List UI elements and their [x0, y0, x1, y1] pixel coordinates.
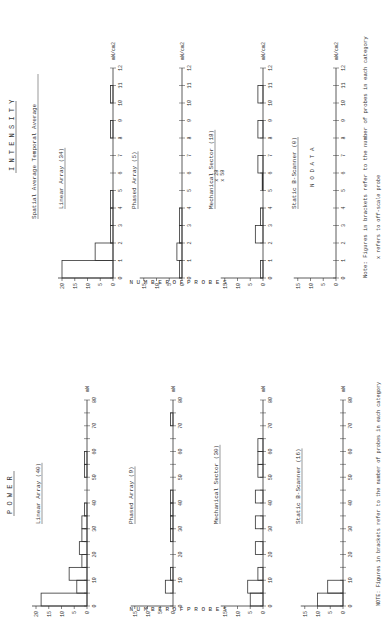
- x-tick-label: 10: [341, 100, 347, 106]
- x-tick-label: 5: [268, 189, 274, 192]
- x-tick-label: 30: [348, 526, 354, 532]
- histogram-bar: [318, 593, 344, 606]
- histogram-bar: [258, 464, 263, 477]
- x-tick-label: 0: [178, 604, 184, 607]
- x-tick-label: 70: [178, 423, 184, 429]
- y-tick-label: 10: [236, 283, 242, 289]
- x-tick-label: 6: [118, 171, 124, 174]
- x-tick-label: 20: [178, 551, 184, 557]
- x-tick-label: 8: [341, 136, 347, 139]
- histogram-bar: [95, 243, 113, 261]
- x-tick-label: 9: [118, 119, 124, 122]
- rotated-page: P O W E RI N T E N S I T YSpatial Averag…: [0, 0, 391, 619]
- y-tick-label: 10: [86, 283, 92, 289]
- x-tick-label: 6: [187, 171, 193, 174]
- histogram-bar: [262, 173, 263, 191]
- x-tick-label: 4: [118, 206, 124, 209]
- y-tick-label: 20: [60, 283, 66, 289]
- histogram-bar: [110, 121, 113, 139]
- histogram-bar: [84, 452, 87, 465]
- x-tick-label: 4: [187, 206, 193, 209]
- y-tick-label: 15: [47, 611, 53, 617]
- x-tick-label: 6: [268, 171, 274, 174]
- x-tick-label: 4: [341, 206, 347, 209]
- x-tick-label: 40: [268, 500, 274, 506]
- histogram-bar: [170, 567, 173, 580]
- x-tick-label: 0: [118, 276, 124, 279]
- x-tick-label: 0: [187, 276, 193, 279]
- x-tick-label: 50: [92, 474, 98, 480]
- histogram-bar: [179, 261, 182, 279]
- chart-title: Phased Array (9): [128, 466, 135, 524]
- y-tick-label: 5: [328, 611, 334, 614]
- x-tick-label: 10: [118, 100, 124, 106]
- x-tick-label: 10: [187, 100, 193, 106]
- x-tick-label: 11: [268, 82, 274, 88]
- y-tick-label: 10: [236, 611, 242, 617]
- histogram-bar: [170, 490, 173, 503]
- histogram-bar: [255, 516, 263, 529]
- histogram-bar: [255, 226, 263, 244]
- x-tick-label: 8: [118, 136, 124, 139]
- x-tick-label: 2: [118, 241, 124, 244]
- histogram-bar: [77, 580, 87, 593]
- x-tick-label: 50: [178, 474, 184, 480]
- histogram-bar: [260, 208, 263, 226]
- x-tick-label: 50: [348, 474, 354, 480]
- chart-title: Phased Array (5): [131, 151, 138, 209]
- y-tick-label: 15: [296, 283, 302, 289]
- histogram-bar: [110, 226, 113, 244]
- histogram-bar: [170, 503, 173, 516]
- x-tick-label: 11: [187, 82, 193, 88]
- y-tick-label: 0: [261, 611, 267, 614]
- y-tick-label: 10: [309, 283, 315, 289]
- x-tick-label: 8: [268, 136, 274, 139]
- histogram-bar: [258, 452, 263, 465]
- y-tick-label: 10: [316, 611, 322, 617]
- x-tick-label: 50: [268, 474, 274, 480]
- histogram-bar: [258, 567, 263, 580]
- y-tick-label: 0: [341, 611, 347, 614]
- x-tick-label: 0: [268, 604, 274, 607]
- y-tick-label: 5: [248, 611, 254, 614]
- x-tick-label: 5: [187, 189, 193, 192]
- x-tick-label: 1: [118, 259, 124, 262]
- y-tick-label: 15: [142, 283, 148, 289]
- x-tick-label: 2: [268, 241, 274, 244]
- x-tick-label: 60: [348, 448, 354, 454]
- chart-title: Static B-Scanner (0): [291, 137, 298, 209]
- x-tick-label: 9: [268, 119, 274, 122]
- histogram-bar: [328, 580, 343, 593]
- x-tick-label: 7: [118, 154, 124, 157]
- x-tick-label: 1: [187, 259, 193, 262]
- histogram-bar: [110, 208, 113, 226]
- x-tick-label: 0: [268, 276, 274, 279]
- x-tick-label: 40: [92, 500, 98, 506]
- x-tick-label: 5: [341, 189, 347, 192]
- power-section-title: P O W E R: [6, 475, 14, 514]
- x-tick-label: 4: [268, 206, 274, 209]
- histogram-bar: [79, 542, 87, 555]
- chart-title: Static B-Scanner (16): [295, 448, 302, 524]
- y-tick-label: 0: [261, 283, 267, 286]
- intensity-subtitle: Spatial Average Temporal Average: [31, 103, 38, 219]
- no-data-label: N O D A T A: [309, 147, 316, 187]
- x-tick-label: 12: [187, 65, 193, 71]
- x-unit-label: mW/cm2: [334, 42, 340, 60]
- histogram-bar: [258, 156, 263, 174]
- histogram-bar: [258, 121, 263, 139]
- x-unit-label: mW: [341, 386, 347, 392]
- histogram-bar: [170, 516, 173, 529]
- x-tick-label: 2: [341, 241, 347, 244]
- histogram-bar: [258, 86, 263, 104]
- x-tick-label: 3: [118, 224, 124, 227]
- x-unit-label: mW: [261, 386, 267, 392]
- x-tick-label: 11: [341, 82, 347, 88]
- y-tick-label: 5: [158, 611, 164, 614]
- histogram-bar: [255, 542, 263, 555]
- x-unit-label: mW/cm2: [261, 42, 267, 60]
- y-tick-label: 20: [34, 611, 40, 617]
- histogram-bar: [82, 529, 87, 542]
- y-tick-label: 10: [146, 611, 152, 617]
- intensity-section-title: I N T E N S I T Y: [8, 99, 16, 171]
